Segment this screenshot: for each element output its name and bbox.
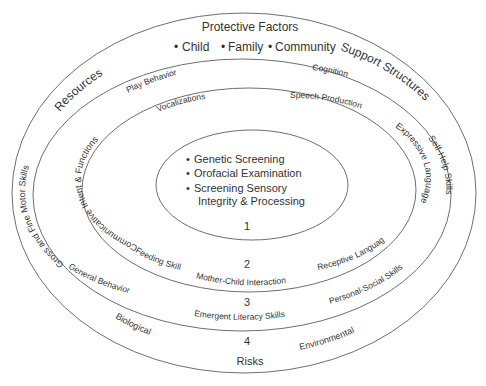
label-vocalizations: Vocalizations bbox=[155, 91, 206, 114]
ring-number-1: 1 bbox=[244, 220, 250, 232]
bullet: • bbox=[174, 40, 178, 54]
bullet: • bbox=[268, 40, 272, 54]
core-item-orofacial: Orofacial Examination bbox=[194, 167, 302, 179]
label-risks: Risks bbox=[237, 355, 264, 367]
protective-factors-title: Protective Factors bbox=[202, 20, 299, 34]
label-gross-fine-motor: Gross and Fine Motor Skills bbox=[17, 163, 65, 270]
ring-number-4: 4 bbox=[244, 335, 250, 347]
concentric-ellipses-diagram: Protective Factors • Child • Family • Co… bbox=[0, 0, 486, 386]
label-resources: Resources bbox=[52, 65, 105, 114]
bullet: • bbox=[186, 182, 190, 194]
factor-family: Family bbox=[228, 40, 263, 54]
core-item-sensory: Screening Sensory bbox=[194, 182, 287, 194]
label-support-structures: Support Structures bbox=[339, 40, 433, 104]
label-speech-production: Speech Production bbox=[290, 90, 364, 111]
ring-number-2: 2 bbox=[244, 258, 250, 270]
developmental-assessment-diagram: Protective Factors • Child • Family • Co… bbox=[0, 0, 486, 386]
label-mother-child: Mother-Child Interaction bbox=[195, 270, 286, 287]
core-item-sensory-cont: Integrity & Processing bbox=[198, 195, 305, 207]
bullet: • bbox=[186, 167, 190, 179]
label-play-behavior: Play Behavior bbox=[124, 67, 177, 95]
label-emergent-literacy: Emergent Literacy Skills bbox=[194, 308, 286, 322]
factor-community: Community bbox=[275, 40, 336, 54]
bullet: • bbox=[221, 40, 225, 54]
label-biological: Biological bbox=[114, 311, 153, 337]
label-communicative-intent: Communicative Intent & Functions bbox=[73, 134, 139, 253]
factor-child: Child bbox=[182, 40, 209, 54]
label-environmental: Environmental bbox=[298, 325, 355, 352]
core-item-genetic-screening: Genetic Screening bbox=[194, 153, 285, 165]
label-cognition: Cognition bbox=[312, 62, 350, 79]
bullet: • bbox=[186, 153, 190, 165]
label-personal-social: Personal-Social Skills bbox=[328, 262, 405, 306]
ring-number-3: 3 bbox=[244, 296, 250, 308]
